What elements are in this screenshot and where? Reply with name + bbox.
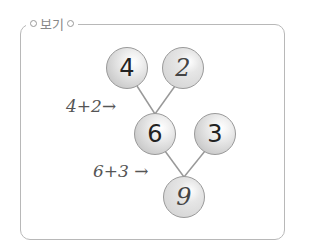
number-circle-6: 6	[134, 113, 176, 155]
number-circle-9: 9	[163, 176, 205, 218]
number-circle-4: 4	[106, 47, 148, 89]
number-circle-3: 3	[194, 113, 236, 155]
label-6-plus-3: 6+3 →	[93, 161, 149, 181]
label-4-plus-2: 4+2→	[66, 96, 116, 116]
number-circle-2: 2	[162, 47, 204, 89]
